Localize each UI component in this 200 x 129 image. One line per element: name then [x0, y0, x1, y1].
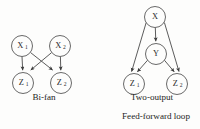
- node-y-label: Y: [153, 49, 159, 58]
- node-z1-right-subscript: 1: [137, 82, 140, 88]
- network-motif-figure: X 1 X 2 Z 1 Z 2 B: [0, 0, 200, 129]
- node-z2-right-subscript: 2: [180, 82, 183, 88]
- node-z1-right-label: Z: [130, 79, 135, 88]
- node-z1-left-label: Z: [19, 78, 24, 87]
- node-z1-left[interactable]: Z 1: [13, 73, 34, 94]
- node-x1[interactable]: X 1: [12, 36, 33, 57]
- diagram-bi-fan: X 1 X 2 Z 1 Z 2 B: [12, 36, 72, 103]
- diagram-feed-forward-loop: X Y Z 1 Z 2 Two-output Feed-for: [122, 7, 190, 122]
- node-x[interactable]: X: [145, 7, 166, 28]
- node-z2-left-subscript: 2: [64, 81, 67, 87]
- node-z2-right-label: Z: [173, 79, 178, 88]
- node-x1-label: X: [17, 41, 23, 50]
- edge-x1-to-z1: [22, 57, 23, 71]
- caption-feed-forward-loop: Feed-forward loop: [122, 111, 190, 121]
- node-z2-left[interactable]: Z 2: [51, 73, 72, 94]
- node-z2-left-label: Z: [57, 78, 62, 87]
- node-z1-left-subscript: 1: [26, 81, 29, 87]
- edge-x-to-z2: [164, 23, 179, 72]
- edge-y-to-z1: [137, 60, 147, 72]
- bi-fan-nodes: X 1 X 2 Z 1 Z 2: [12, 36, 72, 94]
- node-x2-subscript: 2: [63, 44, 66, 50]
- node-x-label: X: [152, 12, 158, 21]
- caption-two-output: Two-output: [131, 92, 174, 102]
- motif-diagram-canvas: X 1 X 2 Z 1 Z 2 B: [0, 0, 200, 129]
- node-x2[interactable]: X 2: [50, 36, 71, 57]
- node-y[interactable]: Y: [146, 44, 167, 65]
- edge-y-to-z2: [164, 60, 174, 72]
- node-x1-subscript: 1: [25, 44, 28, 50]
- caption-bi-fan: Bi-fan: [32, 92, 56, 102]
- edge-x-to-y: [155, 28, 156, 42]
- node-x2-label: X: [55, 41, 61, 50]
- ffl-nodes: X Y Z 1 Z 2: [124, 7, 188, 95]
